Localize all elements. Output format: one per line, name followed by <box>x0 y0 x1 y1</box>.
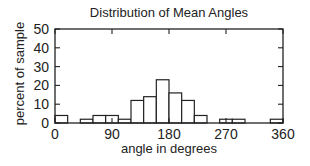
histogram-bar <box>55 115 68 123</box>
tick-label: 20 <box>33 77 49 93</box>
histogram-bar <box>131 100 144 123</box>
histogram-bar <box>144 97 157 123</box>
tick-label: 270 <box>214 126 238 142</box>
tick-label: 30 <box>33 59 49 75</box>
tick-label: 0 <box>41 115 49 131</box>
tick-label: 10 <box>33 96 49 112</box>
histogram-bar <box>156 80 169 123</box>
histogram-bars <box>55 80 283 123</box>
histogram-bar <box>93 115 106 123</box>
tick-label: 40 <box>33 40 49 56</box>
tick-label: 90 <box>104 126 120 142</box>
tick-label: 50 <box>33 21 49 37</box>
histogram-bar <box>194 115 207 123</box>
tick-label: 180 <box>157 126 181 142</box>
tick-label: 0 <box>51 126 59 142</box>
histogram-plot: 01020304050090180270360 <box>0 0 310 166</box>
tick-label: 360 <box>271 126 295 142</box>
histogram-bar <box>182 100 195 123</box>
histogram-bar <box>169 93 182 123</box>
